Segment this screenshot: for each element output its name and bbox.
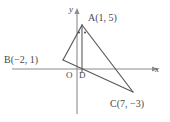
segment-bc [63, 60, 133, 92]
segment-ab [63, 25, 82, 60]
origin-label: O [66, 71, 73, 80]
y-axis-label: y [69, 5, 73, 14]
point-label-a: A(1, 5) [88, 13, 117, 23]
triangle-abc [63, 25, 133, 92]
x-axis-label: x [155, 65, 159, 74]
angle-mark-dot-right [84, 32, 86, 34]
point-label-c: C(7, −3) [110, 99, 144, 109]
geometry-figure: A(1, 5) B(−2, 1) C(7, −3) O D x y [0, 0, 170, 122]
point-label-d: D [79, 71, 86, 80]
angle-mark-dot-left [78, 32, 80, 34]
segment-ac [82, 25, 133, 92]
y-axis-arrowhead [74, 8, 79, 14]
y-axis [74, 8, 79, 114]
point-label-b: B(−2, 1) [4, 55, 38, 65]
